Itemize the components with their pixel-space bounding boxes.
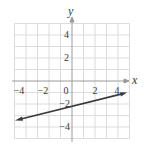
axes <box>12 17 129 142</box>
line-arrow-left-icon <box>15 117 23 121</box>
y-tick-label: 2 <box>64 52 69 63</box>
x-tick-label: 0 <box>64 85 69 96</box>
plotted-line <box>15 92 127 121</box>
x-tick-label: −2 <box>38 85 49 96</box>
x-tick-label: −4 <box>14 85 25 96</box>
x-axis-label: x <box>131 73 138 87</box>
y-axis-label: y <box>67 4 74 18</box>
y-tick-label: 4 <box>64 29 69 40</box>
x-axis-arrow-icon <box>124 79 129 83</box>
line-arrow-right-icon <box>120 92 127 96</box>
y-tick-label: −4 <box>59 121 70 132</box>
coordinate-plane: x y −4 −2 0 2 4 4 2 −2 −4 <box>0 0 144 146</box>
x-tick-label: 2 <box>93 85 98 96</box>
